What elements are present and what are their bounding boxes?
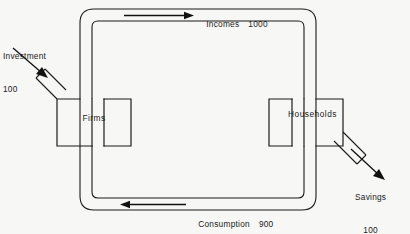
investment-label-text: Investment <box>3 51 46 62</box>
flow-label-incomes: Incomes1000 <box>196 8 268 41</box>
flow-label-consumption: Consumption900 <box>188 208 273 234</box>
pipe-inner-wall-top-left <box>92 21 98 99</box>
pipe-inner-wall-bottom-left <box>92 146 98 198</box>
households-box-outline <box>269 99 343 146</box>
flow-label-investment: Investment 100 <box>3 29 46 117</box>
investment-value: 100 <box>3 84 46 95</box>
savings-stub-inner <box>334 141 357 164</box>
incomes-arrow-head <box>184 12 194 19</box>
flow-label-savings: Savings 100 <box>355 170 386 234</box>
incomes-value: 1000 <box>248 19 267 29</box>
savings-value: 100 <box>355 225 386 234</box>
consumption-label-text: Consumption <box>198 219 250 229</box>
savings-label-text: Savings <box>355 192 386 203</box>
pipe-inner-wall-bottom <box>98 146 304 198</box>
circular-flow-diagram: Firms Households Incomes1000 Consumption… <box>0 0 410 234</box>
node-label-households: Households <box>271 109 354 120</box>
incomes-label-text: Incomes <box>206 19 239 29</box>
consumption-arrow-head <box>120 201 130 208</box>
investment-stub-inner <box>45 69 66 90</box>
node-label-firms: Firms <box>57 113 131 124</box>
consumption-value: 900 <box>259 219 274 229</box>
